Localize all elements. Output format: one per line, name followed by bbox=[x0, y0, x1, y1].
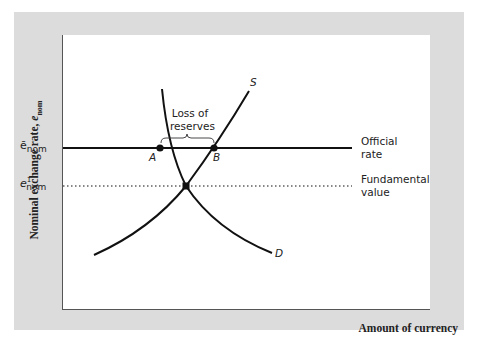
x-axis-label: Amount of currency bbox=[359, 322, 458, 334]
y-tick-fundamental: e1nom bbox=[20, 176, 46, 192]
point-b-label: B bbox=[213, 151, 220, 164]
y-axis-label: Nominal exchange rate, enom bbox=[28, 100, 43, 239]
equilibrium-marker bbox=[183, 183, 190, 190]
fundamental-value-label: Fundamentalvalue bbox=[361, 173, 430, 199]
loss-of-reserves-label: Loss ofreserves bbox=[170, 107, 210, 133]
point-a-label: A bbox=[149, 151, 156, 164]
supply-label: S bbox=[250, 76, 257, 89]
official-rate-label: Officialrate bbox=[361, 135, 397, 161]
y-tick-official: ēnom bbox=[20, 139, 47, 154]
demand-label: D bbox=[275, 247, 283, 260]
point-a-marker bbox=[156, 144, 163, 151]
